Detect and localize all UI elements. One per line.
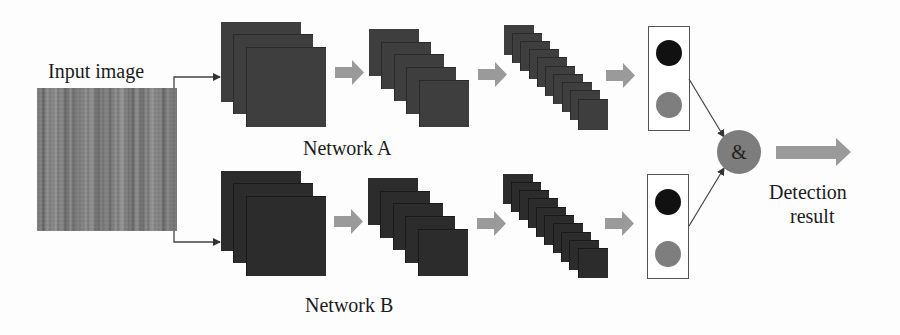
input-to-network-a-connector [174, 77, 220, 88]
stage-arrow-icon [477, 211, 506, 236]
input-to-network-b-connector [174, 231, 220, 242]
stage-arrow-icon [605, 211, 634, 236]
connectors [0, 0, 900, 335]
stage-arrow-icon [335, 60, 364, 85]
fusion-and-node: & [717, 130, 761, 174]
network-b-to-fusion-connector [689, 168, 724, 226]
network-diagram: Input image Network A [0, 0, 900, 335]
stage-arrow-icon [478, 62, 507, 87]
detection-result-label-line1: Detection [769, 182, 847, 202]
network-a-to-fusion-connector [689, 79, 724, 137]
stage-arrow-icon [606, 63, 635, 88]
stage-arrow-icon [334, 209, 363, 234]
and-symbol: & [731, 141, 747, 164]
result-arrow-icon [776, 138, 851, 166]
detection-result-label-line2: result [790, 206, 834, 226]
